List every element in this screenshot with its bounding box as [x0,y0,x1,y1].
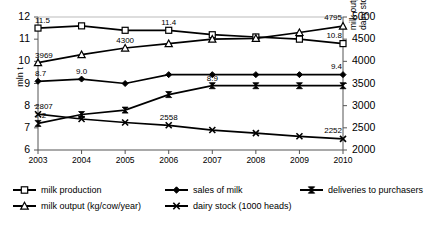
legend-row-1: milk production sales of milk deliveries… [12,182,424,198]
data-point-label: 8.9 [207,74,219,83]
data-point-label: 2558 [160,113,178,122]
legend-key-diamond-filled-icon [164,184,190,196]
data-point-label: 3969 [35,51,53,60]
data-point-label: 9.4 [331,62,343,71]
data-point-label: 2252 [324,126,342,135]
legend-item-milk-output[interactable]: milk output (kg/cow/year) [12,200,164,212]
legend-label: dairy stock (1000 heads) [193,201,292,211]
data-point-label: 2807 [35,102,53,111]
data-point-label: 10.8 [326,31,342,40]
legend-key-square-open-icon [12,184,38,196]
chart-container: mln t milk output per cow in kg; dairy s… [0,0,429,230]
data-point-label: 11.4 [161,18,177,27]
legend-label: deliveries to purchasers [328,185,423,195]
legend-row-2: milk output (kg/cow/year) dairy stock (1… [12,198,424,214]
legend-key-cross-x-icon [164,200,190,212]
data-point-label: 11.5 [35,16,51,25]
legend-label: milk output (kg/cow/year) [41,201,141,211]
legend-item-deliveries-to-purchasers[interactable]: deliveries to purchasers [299,184,423,196]
legend-item-sales-of-milk[interactable]: sales of milk [164,184,299,196]
legend-item-dairy-stock[interactable]: dairy stock (1000 heads) [164,200,292,212]
legend-item-milk-production[interactable]: milk production [12,184,164,196]
legend-key-bowtie-filled-icon [299,184,325,196]
data-point-label: 4795 [324,13,342,22]
legend-key-triangle-open-icon [12,200,38,212]
legend-label: milk production [41,185,102,195]
data-point-label: 4300 [116,36,134,45]
data-point-label: 8.7 [35,69,47,78]
data-point-label: 9.0 [76,67,88,76]
legend-label: sales of milk [193,185,243,195]
chart-legend: milk production sales of milk deliveries… [12,182,424,214]
